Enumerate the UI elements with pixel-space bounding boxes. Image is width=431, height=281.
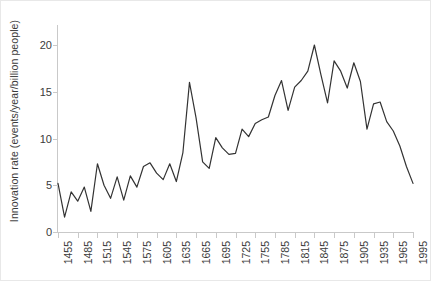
- series-line-innovation-rate: [58, 45, 413, 217]
- x-tick-label: 1965: [397, 241, 409, 264]
- x-tick-mark: [97, 233, 98, 238]
- x-tick-mark: [216, 233, 217, 238]
- x-tick-label: 1545: [121, 241, 133, 264]
- x-tick-mark: [393, 233, 394, 238]
- x-tick-label: 1815: [299, 241, 311, 264]
- y-tick-mark: [53, 45, 58, 46]
- x-tick-label: 1785: [279, 241, 291, 264]
- x-tick-mark: [236, 233, 237, 238]
- x-tick-mark: [413, 233, 414, 238]
- series-line-chart: [1, 1, 431, 281]
- x-tick-mark: [255, 233, 256, 238]
- x-tick-mark: [314, 233, 315, 238]
- x-tick-mark: [354, 233, 355, 238]
- x-tick-mark: [275, 233, 276, 238]
- y-tick-mark: [53, 139, 58, 140]
- x-tick-mark: [137, 233, 138, 238]
- x-tick-label: 1695: [220, 241, 232, 264]
- x-tick-mark: [295, 233, 296, 238]
- chart-figure: Innovation rate (events/year/billion peo…: [0, 0, 431, 281]
- x-tick-mark: [196, 233, 197, 238]
- x-tick-label: 1905: [358, 241, 370, 264]
- x-tick-label: 1455: [62, 241, 74, 264]
- x-tick-label: 1485: [82, 241, 94, 264]
- x-tick-mark: [58, 233, 59, 238]
- x-tick-label: 1605: [161, 241, 173, 264]
- x-tick-label: 1725: [240, 241, 252, 264]
- x-tick-label: 1575: [141, 241, 153, 264]
- x-tick-label: 1515: [101, 241, 113, 264]
- x-tick-mark: [78, 233, 79, 238]
- x-tick-label: 1995: [417, 241, 429, 264]
- x-tick-mark: [374, 233, 375, 238]
- x-tick-label: 1935: [378, 241, 390, 264]
- x-tick-mark: [157, 233, 158, 238]
- x-tick-label: 1845: [318, 241, 330, 264]
- x-tick-label: 1635: [180, 241, 192, 264]
- x-tick-mark: [334, 233, 335, 238]
- y-tick-mark: [53, 92, 58, 93]
- x-tick-label: 1755: [259, 241, 271, 264]
- x-tick-mark: [176, 233, 177, 238]
- x-tick-mark: [117, 233, 118, 238]
- y-tick-mark: [53, 185, 58, 186]
- x-tick-label: 1665: [200, 241, 212, 264]
- x-tick-label: 1875: [338, 241, 350, 264]
